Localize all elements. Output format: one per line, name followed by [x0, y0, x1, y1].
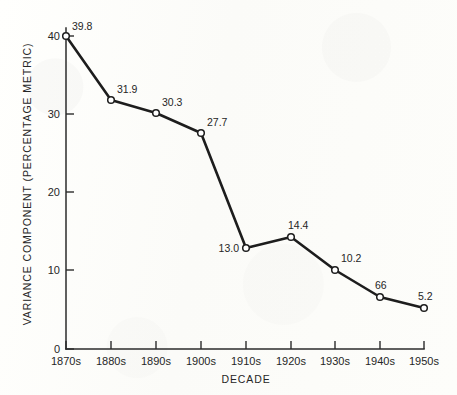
x-tick-label: 1930s — [320, 355, 350, 367]
y-tick-30: 30 — [48, 108, 74, 120]
data-point-label: 14.4 — [288, 219, 309, 231]
x-tick-label: 1870s — [51, 355, 81, 367]
line-chart: VARIANCE COMPONENT (PERCENTAGE METRIC) 0… — [0, 0, 457, 395]
data-point-label: 27.7 — [207, 116, 228, 128]
data-point[interactable] — [288, 234, 295, 241]
x-tick-1910s: 1910s — [231, 341, 261, 367]
data-point[interactable] — [198, 130, 205, 137]
x-tick-label: 1890s — [141, 355, 171, 367]
x-tick-1900s: 1900s — [186, 341, 216, 367]
y-tick-label: 30 — [48, 108, 60, 120]
y-tick-label: 0 — [54, 343, 60, 355]
data-point-label: 5.2 — [418, 290, 433, 302]
y-tick-label: 20 — [48, 186, 60, 198]
y-tick-group: 0 10 20 30 40 — [48, 30, 74, 355]
x-tick-label: 1940s — [365, 355, 395, 367]
data-point[interactable] — [153, 110, 160, 117]
chart-canvas: VARIANCE COMPONENT (PERCENTAGE METRIC) 0… — [0, 0, 457, 395]
x-tick-label: 1900s — [186, 355, 216, 367]
x-tick-1890s: 1890s — [141, 341, 171, 367]
data-point[interactable] — [377, 294, 384, 301]
x-tick-1920s: 1920s — [276, 341, 306, 367]
data-series-line — [66, 36, 424, 308]
y-tick-label: 40 — [48, 30, 60, 42]
data-point-label: 30.3 — [162, 96, 183, 108]
y-tick-10: 10 — [48, 264, 74, 276]
x-tick-1930s: 1930s — [320, 341, 350, 367]
data-point-label: 31.9 — [117, 83, 138, 95]
x-tick-label: 1920s — [276, 355, 306, 367]
data-label-group: 39.8 31.9 30.3 27.7 13.0 14.4 10.2 66 5.… — [72, 20, 433, 302]
data-point-label: 39.8 — [72, 20, 93, 32]
data-point[interactable] — [108, 97, 115, 104]
x-axis-title: DECADE — [221, 373, 270, 385]
data-point[interactable] — [421, 305, 428, 312]
y-tick-0: 0 — [54, 343, 74, 355]
data-point-group — [63, 33, 428, 312]
data-point-label: 13.0 — [219, 242, 240, 254]
data-point[interactable] — [243, 245, 250, 252]
x-tick-label: 1910s — [231, 355, 261, 367]
x-tick-group: 1870s 1880s 1890s 1900s 1910s 1920s — [51, 341, 439, 367]
data-point[interactable] — [63, 33, 70, 40]
x-tick-1940s: 1940s — [365, 341, 395, 367]
x-tick-label: 1950s — [409, 355, 439, 367]
y-tick-20: 20 — [48, 186, 74, 198]
x-tick-1950s: 1950s — [409, 341, 439, 367]
y-axis-title: VARIANCE COMPONENT (PERCENTAGE METRIC) — [21, 43, 33, 326]
data-point-label: 66 — [375, 279, 387, 291]
data-point-label: 10.2 — [341, 252, 362, 264]
x-tick-1880s: 1880s — [96, 341, 126, 367]
y-tick-label: 10 — [48, 264, 60, 276]
data-point[interactable] — [332, 267, 339, 274]
x-tick-label: 1880s — [96, 355, 126, 367]
